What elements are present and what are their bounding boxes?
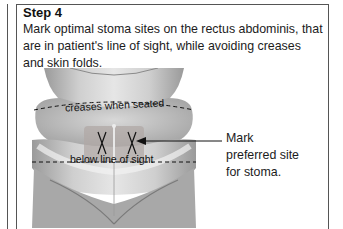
preferred-site-callout: Mark preferred site for stoma. [226,130,299,181]
step-description: Mark optimal stoma sites on the rectus a… [23,21,323,72]
callout-line-1: Mark [226,130,299,147]
callout-line-3: for stoma. [226,164,299,181]
line-of-sight-label: below line of sight [70,153,153,165]
step-title: Step 4 [23,5,62,20]
callout-line-2: preferred site [226,147,299,164]
previous-step-box-edge [0,4,8,229]
abdomen-illustration [30,68,198,228]
arrow-icon [136,136,224,146]
